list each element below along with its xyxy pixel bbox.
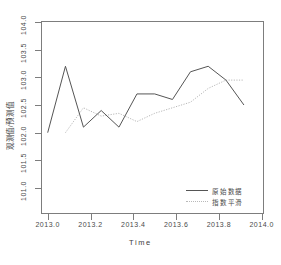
legend-swatch-solid-icon	[186, 187, 208, 195]
y-tick-mark	[35, 77, 41, 78]
legend-item-observed: 原始数据	[186, 185, 260, 196]
x-axis-title: Time	[0, 238, 281, 247]
x-tick-mark	[48, 214, 49, 220]
y-tick-label: 102.5	[20, 98, 27, 118]
x-tick-label: 2014.0	[242, 221, 281, 228]
legend-swatch-dotted-icon	[186, 198, 208, 206]
legend-item-smoothed: 指数平滑	[186, 196, 260, 207]
y-tick-mark	[35, 50, 41, 51]
y-axis-title: 观测值/预测值	[4, 102, 15, 150]
legend-label-smoothed: 指数平滑	[208, 197, 243, 207]
y-tick-label: 102.0	[20, 126, 27, 146]
x-tick-label: 2013.4	[113, 221, 153, 228]
y-tick-label: 104.0	[20, 15, 27, 35]
x-tick-mark	[133, 214, 134, 220]
x-tick-label: 2013.6	[156, 221, 196, 228]
legend: 原始数据 指数平滑	[186, 185, 260, 207]
x-tick-label: 2013.0	[28, 221, 68, 228]
y-tick-mark	[35, 105, 41, 106]
legend-label-observed: 原始数据	[208, 186, 243, 196]
x-tick-mark	[262, 214, 263, 220]
y-tick-mark	[35, 133, 41, 134]
x-tick-mark	[219, 214, 220, 220]
series-line-smoothed	[65, 80, 243, 133]
y-tick-mark	[35, 160, 41, 161]
chart-figure: 101.0101.5102.0102.5103.0103.5104.0 2013…	[0, 0, 281, 265]
series-line-observed	[48, 66, 244, 132]
x-tick-label: 2013.2	[71, 221, 111, 228]
y-tick-label: 101.5	[20, 153, 27, 173]
y-tick-label: 103.5	[20, 43, 27, 63]
y-tick-mark	[35, 188, 41, 189]
x-tick-mark	[91, 214, 92, 220]
y-tick-label: 101.0	[20, 181, 27, 201]
x-tick-mark	[176, 214, 177, 220]
x-tick-label: 2013.8	[199, 221, 239, 228]
y-tick-mark	[35, 22, 41, 23]
y-tick-label: 103.0	[20, 70, 27, 90]
